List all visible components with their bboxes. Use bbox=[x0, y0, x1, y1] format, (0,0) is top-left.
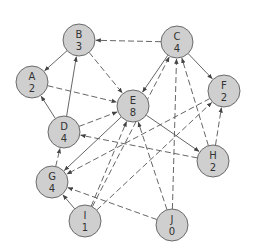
node-value-label: 3 bbox=[76, 41, 82, 52]
node-value-label: 2 bbox=[210, 162, 216, 173]
node-a: A2 bbox=[16, 66, 48, 98]
edge-c-to-e bbox=[143, 55, 168, 92]
graph-diagram: A2B3C4D4E8F2G4H2I1J0 bbox=[0, 0, 262, 250]
node-value-label: 8 bbox=[130, 107, 136, 118]
node-id-label: J bbox=[170, 214, 174, 225]
node-value-label: 4 bbox=[49, 183, 55, 194]
node-id-label: C bbox=[174, 31, 181, 42]
node-i: I1 bbox=[69, 205, 101, 237]
node-j: J0 bbox=[156, 209, 188, 241]
edge-b-to-e bbox=[89, 52, 122, 92]
node-value-label: 1 bbox=[82, 222, 88, 233]
edge-i-to-c bbox=[92, 57, 169, 207]
node-value-label: 0 bbox=[169, 226, 175, 237]
node-id-label: I bbox=[84, 210, 87, 221]
edge-a-to-e bbox=[48, 86, 117, 102]
edge-d-to-a bbox=[41, 96, 55, 118]
nodes-layer: A2B3C4D4E8F2G4H2I1J0 bbox=[16, 24, 240, 241]
node-id-label: B bbox=[76, 29, 83, 40]
edge-i-to-g bbox=[63, 195, 75, 209]
edge-h-to-f bbox=[216, 108, 222, 145]
node-value-label: 2 bbox=[29, 83, 35, 94]
edge-h-to-c bbox=[182, 58, 209, 145]
node-value-label: 4 bbox=[174, 43, 180, 54]
edge-i-to-e bbox=[91, 122, 126, 207]
edge-c-to-f bbox=[188, 54, 212, 79]
node-id-label: F bbox=[221, 80, 227, 91]
node-d: D4 bbox=[48, 116, 80, 148]
edge-d-to-e bbox=[79, 112, 117, 126]
node-id-label: A bbox=[29, 71, 36, 82]
node-id-label: G bbox=[48, 171, 56, 182]
edge-i-to-f bbox=[97, 103, 212, 211]
node-b: B3 bbox=[63, 24, 95, 56]
edge-c-to-b bbox=[96, 40, 161, 41]
edge-b-to-a bbox=[45, 51, 67, 71]
edge-d-to-b bbox=[67, 57, 77, 116]
node-c: C4 bbox=[161, 26, 193, 58]
edge-j-to-e bbox=[138, 122, 167, 210]
node-h: H2 bbox=[197, 145, 229, 177]
node-f: F2 bbox=[208, 75, 240, 107]
node-value-label: 2 bbox=[221, 92, 227, 103]
node-id-label: D bbox=[60, 121, 68, 132]
node-g: G4 bbox=[36, 166, 68, 198]
node-e: E8 bbox=[117, 90, 149, 122]
node-id-label: H bbox=[209, 150, 217, 161]
node-id-label: E bbox=[130, 95, 136, 106]
edge-e-to-h bbox=[146, 115, 199, 151]
edge-g-to-d bbox=[56, 149, 60, 167]
node-value-label: 4 bbox=[61, 133, 67, 144]
